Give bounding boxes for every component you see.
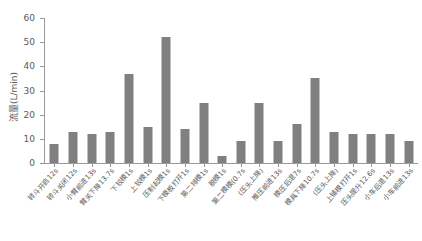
x-tick-mark [204, 163, 205, 167]
bar[interactable] [311, 78, 320, 163]
bar-slot [64, 18, 83, 163]
bar-slot [250, 18, 269, 163]
bar-slot [325, 18, 344, 163]
bar-slot [343, 18, 362, 163]
bar-chart: 流量(L/min) 0102030405060 转斗开启12s转斗关闭12s小臂… [0, 0, 422, 241]
bar[interactable] [143, 127, 152, 163]
x-tick-mark [390, 163, 391, 167]
bar[interactable] [404, 141, 413, 163]
bar[interactable] [162, 37, 171, 163]
bar-slot [157, 18, 176, 163]
bar[interactable] [330, 132, 339, 163]
bar-slot [306, 18, 325, 163]
bar[interactable] [199, 103, 208, 163]
x-tick-mark [371, 163, 372, 167]
bar[interactable] [124, 74, 133, 163]
x-tick-mark [315, 163, 316, 167]
bar-slot [138, 18, 157, 163]
bar-slot [101, 18, 120, 163]
y-tick-label: 50 [24, 37, 35, 47]
plot-area [45, 18, 418, 163]
x-tick-mark [353, 163, 354, 167]
bar-slot [287, 18, 306, 163]
x-tick-mark [259, 163, 260, 167]
x-tick-mark [334, 163, 335, 167]
y-tick-label: 0 [29, 158, 35, 168]
x-tick-label: 转斗开启12s [0, 167, 60, 241]
x-tick-mark [92, 163, 93, 167]
bar-slot [269, 18, 288, 163]
bar[interactable] [106, 132, 115, 163]
bar[interactable] [255, 103, 264, 163]
bar[interactable] [218, 156, 227, 163]
bar[interactable] [348, 134, 357, 163]
x-tick-mark [222, 163, 223, 167]
y-tick-label: 10 [24, 134, 35, 144]
bar-slot [82, 18, 101, 163]
bar-slot [232, 18, 251, 163]
bar[interactable] [87, 134, 96, 163]
bar-slot [399, 18, 418, 163]
x-axis-line [44, 163, 418, 164]
x-tick-mark [278, 163, 279, 167]
y-tick-label: 40 [24, 61, 35, 71]
bar[interactable] [292, 124, 301, 163]
bar-slot [176, 18, 195, 163]
y-tick-label: 60 [24, 13, 35, 23]
x-tick-mark [54, 163, 55, 167]
bar-slot [120, 18, 139, 163]
bar[interactable] [386, 134, 395, 163]
bar[interactable] [50, 144, 59, 163]
bar[interactable] [236, 141, 245, 163]
y-tick-label: 30 [24, 86, 35, 96]
bar[interactable] [180, 129, 189, 163]
x-tick-mark [110, 163, 111, 167]
bar-slot [362, 18, 381, 163]
x-tick-mark [185, 163, 186, 167]
bar-slot [213, 18, 232, 163]
x-tick-mark [297, 163, 298, 167]
bar-slot [381, 18, 400, 163]
y-axis-ticks: 0102030405060 [0, 18, 40, 163]
x-tick-mark [409, 163, 410, 167]
y-tick-label: 20 [24, 110, 35, 120]
bar-slot [45, 18, 64, 163]
x-tick-mark [166, 163, 167, 167]
x-axis-labels: 转斗开启12s转斗关闭12s小臂前进13s臂关下降13.7s下铰模1s上铰模1s… [45, 167, 418, 241]
bar[interactable] [274, 141, 283, 163]
bar-slot [194, 18, 213, 163]
x-tick-mark [129, 163, 130, 167]
x-tick-mark [148, 163, 149, 167]
bar[interactable] [367, 134, 376, 163]
x-tick-mark [241, 163, 242, 167]
bar[interactable] [68, 132, 77, 163]
x-tick-mark [73, 163, 74, 167]
